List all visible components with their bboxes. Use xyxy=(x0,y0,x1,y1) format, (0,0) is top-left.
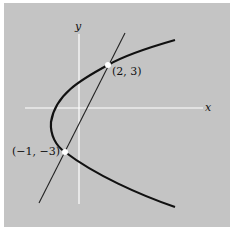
point-label-neg1-neg3: (−1, −3) xyxy=(12,145,60,158)
point-neg1-neg3 xyxy=(62,149,68,155)
y-axis-label: y xyxy=(75,20,81,33)
x-axis-label: x xyxy=(205,101,211,114)
point-label-2-3: (2, 3) xyxy=(112,65,142,78)
plot-canvas xyxy=(0,0,235,234)
point-2-3 xyxy=(105,62,111,68)
